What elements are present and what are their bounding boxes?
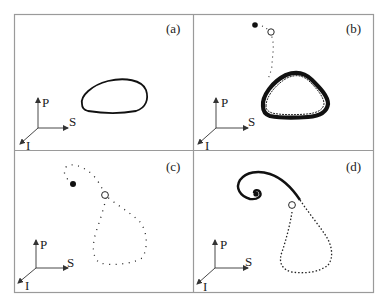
axis-label-s: S	[248, 114, 255, 129]
limit-cycle	[82, 79, 147, 113]
panel-a: P S I (a)	[20, 21, 180, 153]
saddle-point-marker	[102, 192, 109, 199]
phase-portrait-figure: P S I (a) P S I (b) P S I	[0, 0, 381, 303]
axis-label-s: S	[245, 254, 252, 269]
axis-label-s: S	[69, 114, 76, 129]
axis-label-p: P	[220, 237, 227, 252]
axis-label-p: P	[40, 237, 47, 252]
unstable-point-marker	[268, 29, 274, 35]
axis-label-i: I	[25, 278, 29, 293]
panel-d: P S I (d)	[197, 159, 361, 294]
axis-label-i: I	[26, 138, 30, 153]
panel-label-c: (c)	[166, 159, 180, 174]
axis-label-p: P	[221, 95, 228, 110]
panel-label-a: (a)	[166, 21, 180, 36]
stable-point-marker	[70, 181, 76, 187]
panel-b: P S I (b)	[198, 21, 361, 153]
stable-point-marker	[252, 22, 258, 28]
axis-label-i: I	[205, 138, 209, 153]
stable-focus-marker	[253, 191, 258, 196]
axis-label-s: S	[67, 255, 74, 270]
panel-label-d: (d)	[346, 159, 361, 174]
saddle-point-marker	[289, 202, 296, 209]
axis-label-p: P	[42, 95, 49, 110]
spiral-trajectory	[238, 172, 300, 200]
axis-label-i: I	[203, 279, 207, 294]
panel-c: P S I (c)	[18, 159, 180, 293]
excursion-trajectory	[280, 200, 331, 273]
panel-label-b: (b)	[346, 21, 361, 36]
figure-frame	[15, 15, 374, 293]
dotted-trajectory	[64, 165, 146, 265]
